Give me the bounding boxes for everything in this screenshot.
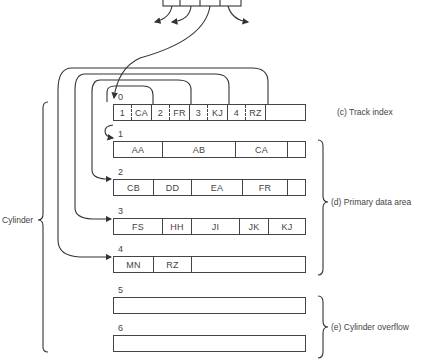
record: HH bbox=[163, 219, 192, 234]
record: DD bbox=[154, 180, 192, 195]
record: CA bbox=[236, 142, 288, 157]
primary-track-1: AA AB CA bbox=[113, 141, 306, 158]
track-number-4: 4 bbox=[118, 244, 123, 254]
record: EA bbox=[192, 180, 243, 195]
record-empty bbox=[192, 257, 305, 272]
record: JK bbox=[240, 219, 269, 234]
track-index-row: 1 CA 2 FR 3 KJ 4 RZ bbox=[113, 104, 306, 121]
record: FR bbox=[243, 180, 288, 195]
track-number-3: 3 bbox=[118, 206, 123, 216]
record-empty bbox=[288, 180, 305, 195]
record-empty bbox=[288, 142, 305, 157]
record: MN bbox=[114, 257, 154, 272]
track-index-key: 4 bbox=[228, 105, 246, 120]
track-number-5: 5 bbox=[118, 285, 123, 295]
track-index-value: CA bbox=[132, 105, 152, 120]
track-index-value: FR bbox=[170, 105, 190, 120]
track-index-label: (c) Track index bbox=[337, 107, 393, 117]
record: KJ bbox=[269, 219, 305, 234]
primary-data-area-label: (d) Primary data area bbox=[331, 197, 411, 207]
record: AB bbox=[163, 142, 236, 157]
primary-track-3: FS HH JI JK KJ bbox=[113, 218, 306, 235]
track-index-key: 3 bbox=[190, 105, 208, 120]
overflow-track-6 bbox=[113, 335, 306, 352]
track-number-6: 6 bbox=[118, 323, 123, 333]
primary-track-4: MN RZ bbox=[113, 256, 306, 273]
track-index-empty bbox=[266, 105, 305, 120]
cylinder-overflow-label: (e) Cylinder overflow bbox=[331, 322, 409, 332]
track-index-key: 2 bbox=[152, 105, 170, 120]
overflow-track-5 bbox=[113, 297, 306, 314]
track-number-2: 2 bbox=[118, 167, 123, 177]
record: CB bbox=[114, 180, 154, 195]
primary-track-2: CB DD EA FR bbox=[113, 179, 306, 196]
track-index-key: 1 bbox=[114, 105, 132, 120]
record: AA bbox=[114, 142, 163, 157]
record: FS bbox=[114, 219, 163, 234]
record: JI bbox=[192, 219, 240, 234]
track-index-value: KJ bbox=[208, 105, 228, 120]
track-number-1: 1 bbox=[118, 129, 123, 139]
track-index-value: RZ bbox=[246, 105, 266, 120]
track-number-0: 0 bbox=[118, 92, 123, 102]
cylinder-label: Cylinder bbox=[2, 215, 33, 225]
record: RZ bbox=[154, 257, 192, 272]
